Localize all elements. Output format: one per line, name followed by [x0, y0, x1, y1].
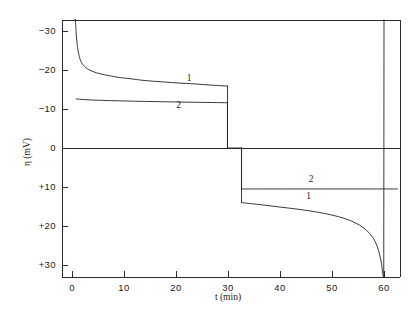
x-tick-label: 50: [326, 282, 337, 293]
x-tick-label: 0: [69, 282, 75, 293]
y-tick-label: +10: [39, 181, 56, 192]
x-tick-label: 20: [170, 282, 181, 293]
y-axis-title: η (mV): [22, 138, 33, 166]
x-tick-label: 60: [378, 282, 389, 293]
figure-container: −30−20−100+10+20+30 0102030405060 1221 η…: [0, 0, 418, 311]
y-tick-label: 0: [50, 142, 56, 153]
y-tick-label: −30: [39, 25, 56, 36]
x-tick-label: 10: [118, 282, 129, 293]
y-tick-label: +20: [39, 220, 56, 231]
plot-background: [0, 0, 418, 311]
eta-vs-time-plot: −30−20−100+10+20+30 0102030405060 1221 η…: [0, 0, 418, 311]
curve-1-label-anodic: 1: [306, 191, 311, 201]
y-tick-label: +30: [39, 259, 56, 270]
curve-1-label-cathodic: 1: [187, 73, 192, 83]
y-tick-label: −10: [39, 103, 56, 114]
x-tick-label: 40: [274, 282, 285, 293]
x-axis-title: t (min): [215, 292, 241, 303]
curve-2-label-anodic: 2: [309, 174, 314, 184]
y-tick-label: −20: [39, 64, 56, 75]
curve-2-label-cathodic: 2: [176, 100, 181, 110]
